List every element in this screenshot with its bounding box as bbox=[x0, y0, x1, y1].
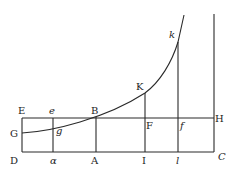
label-I: I bbox=[142, 155, 146, 166]
label-e: e bbox=[49, 105, 55, 116]
label-F: F bbox=[146, 120, 153, 131]
label-D: D bbox=[10, 155, 18, 166]
label-l: l bbox=[176, 155, 179, 166]
curve-GgBKk bbox=[22, 15, 184, 133]
label-C: C bbox=[218, 151, 226, 162]
label-B: B bbox=[91, 105, 98, 116]
label-alpha: α bbox=[50, 155, 57, 166]
label-k: k bbox=[169, 29, 175, 40]
geometric-figure: E e B H G g F f K k D α A I l C bbox=[0, 0, 232, 179]
label-E: E bbox=[18, 105, 25, 116]
label-K: K bbox=[136, 81, 144, 92]
label-g: g bbox=[56, 125, 62, 136]
label-H: H bbox=[215, 113, 224, 124]
label-A: A bbox=[90, 155, 99, 166]
label-f: f bbox=[179, 120, 186, 131]
label-G: G bbox=[10, 128, 18, 139]
figure-canvas: E e B H G g F f K k D α A I l C bbox=[0, 0, 232, 179]
